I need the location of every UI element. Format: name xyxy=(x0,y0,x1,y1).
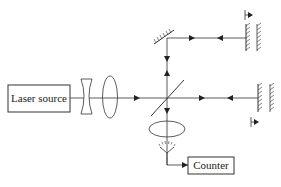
interferometer-diagram: Laser source xyxy=(0,0,281,187)
laser-source-label: Laser source xyxy=(11,92,67,104)
arrow-icon xyxy=(164,70,170,76)
counter-label: Counter xyxy=(193,159,229,171)
top-mirror xyxy=(154,29,174,44)
concave-lens xyxy=(81,79,92,114)
movable-mirror-top xyxy=(246,23,261,51)
translation-arrow-icon xyxy=(251,117,259,127)
counter: Counter xyxy=(188,157,234,174)
movable-mirror-right xyxy=(258,83,274,112)
arrow-icon xyxy=(182,162,188,168)
arrow-icon xyxy=(134,95,140,101)
signal-line xyxy=(167,153,188,165)
convex-lens xyxy=(103,76,118,118)
translation-arrow-icon xyxy=(245,10,253,20)
arrow-icon xyxy=(227,95,233,101)
arrow-icon xyxy=(164,108,170,114)
laser-source: Laser source xyxy=(8,85,70,112)
arrow-icon xyxy=(217,35,223,41)
arrow-icon xyxy=(189,35,195,41)
arrow-icon xyxy=(164,56,170,62)
arrow-icon xyxy=(199,95,205,101)
